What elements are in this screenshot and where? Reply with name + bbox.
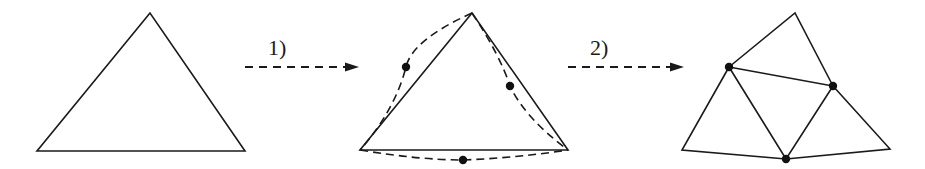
original-triangle bbox=[37, 13, 245, 151]
triangle-with-curved-edges bbox=[360, 13, 568, 164]
triangle-outline bbox=[37, 13, 245, 151]
step-2-label: 2) bbox=[590, 35, 608, 60]
new-vertex-dot-right bbox=[829, 82, 837, 90]
midpoint-dot-left bbox=[402, 63, 410, 71]
left-subtriangle-edges bbox=[682, 67, 786, 159]
step-1-arrow: 1) bbox=[245, 35, 359, 72]
step-2-arrow: 2) bbox=[568, 35, 684, 72]
right-subtriangle-edges bbox=[786, 86, 890, 159]
arrow-head-icon bbox=[345, 63, 359, 72]
midpoint-dot-bottom bbox=[459, 156, 467, 164]
center-subtriangle bbox=[729, 67, 833, 159]
arrow-head-icon bbox=[670, 63, 684, 72]
top-subtriangle-edges bbox=[729, 13, 833, 86]
triangle-outline bbox=[360, 13, 568, 150]
midpoint-dot-right bbox=[506, 82, 514, 90]
new-vertex-dot-left bbox=[725, 63, 733, 71]
triangle-refinement-diagram: 1) 2) bbox=[0, 0, 925, 169]
new-vertex-dot-bottom bbox=[782, 155, 790, 163]
step-1-label: 1) bbox=[268, 35, 286, 60]
subdivided-triangle bbox=[682, 13, 890, 163]
